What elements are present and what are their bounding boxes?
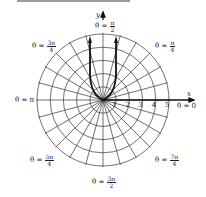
angle-label-a2: θ = π2 [95,20,115,33]
angle-label-a7: θ = 7π4 [155,154,179,167]
angle-label-a5: θ = 5π4 [30,154,54,167]
y-axis-label: y [96,12,100,19]
radial-tick-1: 1 [112,102,116,109]
radial-tick-5: 5 [165,102,169,109]
x-axis-label: x [187,91,191,98]
angle-label-a4: θ = π [15,97,34,104]
angle-label-a3: θ = 3π4 [32,40,56,53]
angle-label-a1: θ = π4 [155,40,175,53]
radial-tick-4: 4 [152,102,156,109]
angle-label-a6: θ = 3π2 [92,176,116,189]
radial-tick-2: 2 [125,102,129,109]
radial-tick-3: 3 [139,102,143,109]
angle-label-a0: θ = 0 [177,103,196,110]
